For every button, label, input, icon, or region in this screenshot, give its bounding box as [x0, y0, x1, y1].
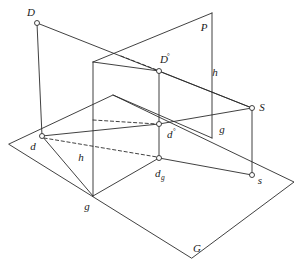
labels: D P D ° h S d d ° g h d g s g G: [26, 6, 265, 254]
dashed-left-to-dimage: [93, 120, 157, 124]
projection-diagram-svg: D P D ° h S d d ° g h d g s g G: [0, 0, 302, 273]
label-h-upper: h: [212, 66, 218, 78]
dashed-d-to-dg: [44, 138, 157, 157]
picture-plane-bottom-edge: [113, 95, 212, 138]
label-d: d: [30, 140, 36, 152]
edge-Dimage-to-S: [159, 71, 252, 108]
picture-plane-top-edge: [93, 13, 212, 62]
label-D-image-group: D °: [159, 49, 172, 66]
picture-plane-P: [93, 13, 212, 138]
label-dg-subscript: g: [161, 173, 165, 182]
vertex-S: [250, 106, 255, 111]
vertices: [35, 21, 255, 178]
geometry-diagram: D P D ° h S d d ° g h d g s g G: [0, 0, 302, 273]
vertex-d: [40, 134, 45, 139]
label-s: s: [258, 174, 262, 186]
label-h-lower: h: [78, 151, 84, 163]
label-g-lower: g: [84, 200, 90, 212]
edge-dg-to-glower: [93, 158, 159, 196]
label-d-image-degree: °: [173, 127, 176, 135]
label-S: S: [259, 101, 265, 113]
edge-dimage-to-S: [159, 108, 252, 124]
vertex-d-image: [157, 122, 162, 127]
label-P: P: [200, 21, 208, 33]
label-D: D: [26, 6, 35, 18]
label-G: G: [193, 242, 201, 254]
edge-dg-to-s: [159, 158, 252, 175]
vertical-plane-small: [93, 62, 159, 196]
vertex-s: [250, 173, 255, 178]
label-D-image-degree: °: [167, 52, 170, 60]
vertex-D-image: [157, 69, 162, 74]
label-g-upper: g: [219, 123, 225, 135]
label-d-image-group: d °: [167, 124, 177, 141]
projection-rays: [37, 23, 252, 196]
vertex-D: [35, 21, 40, 26]
vertex-dg: [157, 156, 162, 161]
edge-D-to-d: [37, 23, 42, 136]
vertical-projectors: [37, 23, 252, 175]
edge-d-to-dimage: [42, 124, 159, 136]
label-dg-group: d g: [155, 163, 165, 182]
